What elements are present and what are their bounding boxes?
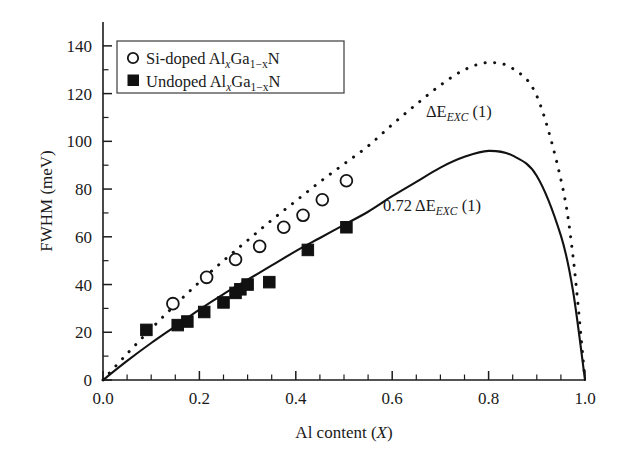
filled-square-icon	[128, 75, 139, 86]
data-point-si-doped	[167, 298, 179, 310]
x-tick-label: 0.0	[92, 389, 113, 408]
data-point-si-doped	[341, 175, 353, 187]
data-point-undoped	[302, 244, 314, 256]
data-point-si-doped	[316, 194, 328, 206]
legend-un-suffix: N	[269, 72, 281, 91]
legend-si-mid: Ga	[230, 49, 250, 68]
y-tick-label: 100	[67, 132, 93, 151]
solid-curve-annotation: 0.72 ΔEEXC (1)	[383, 196, 481, 217]
data-point-undoped	[242, 279, 254, 291]
data-point-si-doped	[254, 240, 266, 252]
x-axis-ticks	[103, 371, 585, 380]
y-tick-label: 0	[84, 371, 93, 390]
annot-dotted-prefix: ΔE	[426, 102, 447, 121]
y-axis-title-text: FWHM (meV)	[37, 150, 56, 252]
open-circle-icon	[128, 53, 138, 63]
data-point-undoped	[218, 297, 230, 309]
y-tick-label: 40	[75, 276, 92, 295]
data-point-si-doped	[278, 221, 290, 233]
y-tick-label: 80	[75, 180, 92, 199]
x-axis-title-var: X	[376, 423, 388, 442]
dotted-curve-annotation-text: ΔEEXC (1)	[426, 102, 492, 123]
annot-solid-sub: EXC	[435, 205, 458, 217]
x-axis-title-pre: Al content (	[295, 423, 377, 442]
y-tick-label: 140	[67, 37, 93, 56]
x-tick-label: 1.0	[574, 389, 595, 408]
annot-dotted-sub: EXC	[446, 111, 469, 123]
data-point-undoped	[198, 306, 210, 318]
annot-solid-prefix: 0.72 ΔE	[383, 196, 436, 215]
legend-un-sub2: 1−x	[251, 81, 269, 93]
figure-container: 020406080100120140 0.00.20.40.60.81.0 FW…	[0, 0, 624, 460]
annot-solid-suffix: (1)	[458, 196, 481, 215]
x-tick-label: 0.6	[382, 389, 403, 408]
x-axis-title-post: )	[387, 423, 393, 442]
dotted-curve-annotation: ΔEEXC (1)	[426, 102, 492, 123]
x-axis-title: Al content (X)	[295, 423, 392, 442]
y-tick-label: 120	[67, 85, 93, 104]
si-doped-data-points	[167, 175, 352, 310]
y-axis-title: FWHM (meV)	[37, 150, 56, 252]
data-point-si-doped	[201, 271, 213, 283]
y-tick-label: 20	[75, 323, 92, 342]
x-axis-tick-labels: 0.00.20.40.60.81.0	[92, 389, 595, 408]
data-point-undoped	[141, 324, 153, 336]
legend-si-suffix: N	[268, 49, 280, 68]
data-point-undoped	[341, 222, 353, 234]
y-axis-ticks	[103, 46, 112, 380]
annot-dotted-suffix: (1)	[468, 102, 491, 121]
x-tick-label: 0.2	[189, 389, 210, 408]
y-axis-tick-labels: 020406080100120140	[67, 37, 93, 390]
legend-un-mid: Ga	[231, 72, 251, 91]
data-point-si-doped	[297, 209, 309, 221]
data-point-undoped	[264, 276, 276, 288]
legend-un-prefix: Undoped Al	[146, 72, 227, 91]
y-tick-label: 60	[75, 228, 92, 247]
data-point-si-doped	[230, 254, 242, 266]
solid-curve-annotation-text: 0.72 ΔEEXC (1)	[383, 196, 481, 217]
x-axis-title-text: Al content (X)	[295, 423, 392, 442]
legend-si-prefix: Si-doped Al	[146, 49, 226, 68]
legend-si-sub2: 1−x	[250, 58, 268, 70]
x-tick-label: 0.8	[478, 389, 499, 408]
legend: Si-doped AlxGa1−xN Undoped AlxGa1−xN	[117, 41, 344, 93]
data-point-undoped	[182, 316, 194, 328]
fwhm-vs-al-content-chart: 020406080100120140 0.00.20.40.60.81.0 FW…	[0, 0, 624, 460]
x-tick-label: 0.4	[285, 389, 307, 408]
